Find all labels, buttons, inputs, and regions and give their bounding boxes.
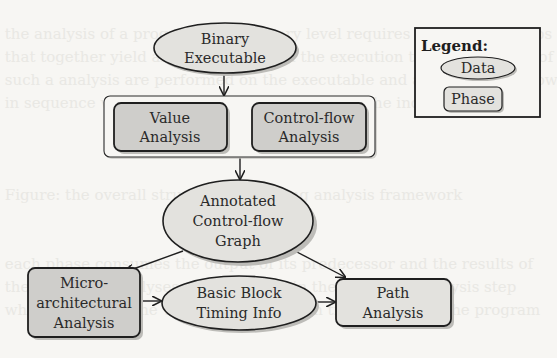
legend-data-label: Data — [461, 60, 496, 76]
node-label: Analysis — [53, 315, 115, 331]
node-binary-executable: Binary Executable — [154, 23, 299, 76]
node-label: Path — [377, 285, 410, 301]
node-annotated-cfg: Annotated Control-flow Graph — [163, 180, 317, 266]
node-basic-block-timing: Basic Block Timing Info — [162, 276, 319, 333]
node-label: Graph — [215, 233, 261, 249]
legend: Legend: Data Phase — [415, 28, 540, 117]
node-label: Executable — [184, 50, 266, 66]
node-label: Value — [149, 110, 190, 126]
node-microarchitectural-analysis: Micro- architectural Analysis — [28, 268, 143, 340]
node-control-flow-analysis: Control-flow Analysis — [252, 103, 369, 154]
node-label: Analysis — [278, 129, 340, 145]
node-label: Analysis — [362, 305, 424, 321]
legend-phase-item: Phase — [444, 87, 504, 113]
node-label: Control-flow — [263, 110, 355, 126]
node-label: Basic Block — [196, 285, 281, 301]
node-label: architectural — [36, 295, 132, 311]
node-label: Micro- — [60, 275, 108, 291]
node-label: Timing Info — [196, 305, 281, 321]
node-value-analysis: Value Analysis — [114, 103, 230, 154]
node-label: Control-flow — [192, 213, 284, 229]
node-label: Annotated — [199, 193, 276, 209]
wcet-analysis-diagram: Binary Executable Value Analysis Control… — [0, 0, 557, 358]
node-label: Analysis — [139, 129, 201, 145]
legend-title: Legend: — [421, 37, 488, 55]
node-path-analysis: Path Analysis — [336, 279, 454, 329]
edge-cfg-to-path — [295, 251, 345, 277]
legend-phase-label: Phase — [451, 91, 495, 107]
node-label: Binary — [201, 31, 250, 47]
